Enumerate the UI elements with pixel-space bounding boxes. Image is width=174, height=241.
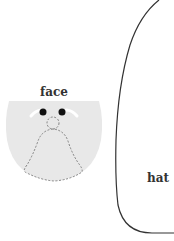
face-shape [6,101,102,181]
face-hat-diagram: face hat [0,0,174,241]
face-label: face [40,85,68,99]
hat-label: hat [147,171,170,185]
left-eye-icon [40,109,47,116]
hat-outline [116,0,174,233]
right-eye-icon [59,109,66,116]
